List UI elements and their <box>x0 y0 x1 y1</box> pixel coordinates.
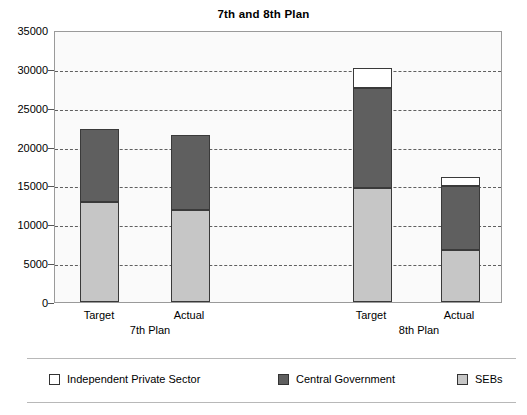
chart-container: 7th and 8th Plan 35000 30000 25000 20000… <box>0 0 527 415</box>
legend-label-independent-private-sector: Independent Private Sector <box>67 373 200 385</box>
bar-segment-sebs <box>171 210 210 302</box>
x-category-label-7th-actual: Actual <box>174 309 205 321</box>
bar-3 <box>441 177 480 302</box>
y-tick-label-25000: 25000 <box>0 103 48 115</box>
gridline <box>55 187 501 188</box>
bar-segment-central-government <box>80 129 119 202</box>
x-category-label-7th-target: Target <box>84 309 115 321</box>
gridline <box>55 226 501 227</box>
x-axis: Target Actual Target Actual 7th Plan 8th… <box>0 303 527 349</box>
gridline <box>55 149 501 150</box>
plot-area <box>54 31 502 303</box>
bar-0 <box>80 129 119 302</box>
legend-item-central-government: Central Government <box>278 373 395 385</box>
y-tick-label-10000: 10000 <box>0 219 48 231</box>
x-group-label-8th-plan: 8th Plan <box>399 324 439 336</box>
bar-segment-sebs <box>353 188 392 302</box>
y-tick-label-15000: 15000 <box>0 180 48 192</box>
bar-segment-central-government <box>171 135 210 210</box>
bar-segment-central-government <box>441 186 480 250</box>
chart-legend: Independent Private Sector Central Gover… <box>27 358 516 403</box>
x-group-label-7th-plan: 7th Plan <box>130 324 170 336</box>
y-tick-label-30000: 30000 <box>0 64 48 76</box>
bar-1 <box>171 135 210 302</box>
bar-segment-central-government <box>353 88 392 188</box>
gridline <box>55 265 501 266</box>
gridline <box>55 110 501 111</box>
legend-item-sebs: SEBs <box>457 373 503 385</box>
legend-item-independent-private-sector: Independent Private Sector <box>49 373 200 385</box>
legend-swatch-icon-independent-private-sector <box>49 374 60 385</box>
x-category-label-8th-actual: Actual <box>444 309 475 321</box>
bar-segment-independent-private-sector <box>353 68 392 89</box>
bar-segment-sebs <box>441 250 480 302</box>
legend-label-central-government: Central Government <box>296 373 395 385</box>
chart-title: 7th and 8th Plan <box>0 8 527 20</box>
bar-segment-independent-private-sector <box>441 177 480 186</box>
legend-label-sebs: SEBs <box>475 373 503 385</box>
y-tick-label-5000: 5000 <box>0 258 48 270</box>
bar-segment-sebs <box>80 202 119 302</box>
y-tick-label-20000: 20000 <box>0 142 48 154</box>
x-category-label-8th-target: Target <box>356 309 387 321</box>
y-tick-label-35000: 35000 <box>0 25 48 37</box>
legend-swatch-icon-sebs <box>457 374 468 385</box>
legend-swatch-icon-central-government <box>278 374 289 385</box>
bar-2 <box>353 68 392 303</box>
gridline <box>55 71 501 72</box>
